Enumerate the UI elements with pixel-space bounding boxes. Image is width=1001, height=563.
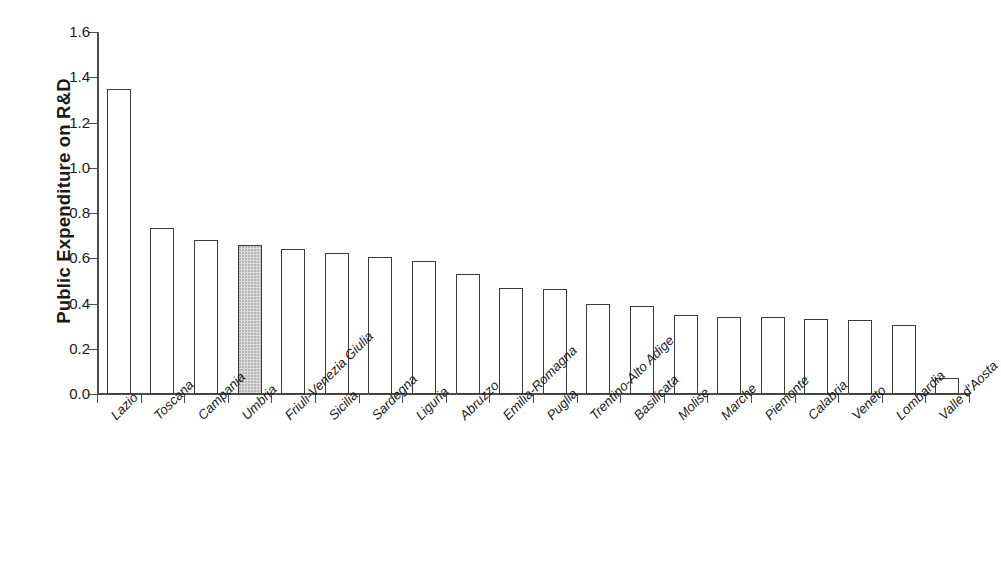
plot-area: 0.00.20.40.60.81.01.21.41.6 <box>97 32 969 394</box>
bar-lazio[interactable] <box>107 89 131 394</box>
bar-trentino-alto-adige[interactable] <box>586 304 610 395</box>
bar-sardegna[interactable] <box>368 257 392 394</box>
bar-marche[interactable] <box>717 317 741 394</box>
bar-toscana[interactable] <box>150 228 174 394</box>
y-tick-label: 1.6 <box>69 23 90 40</box>
x-tick-mark <box>97 395 98 403</box>
y-tick-label: 0.6 <box>69 249 90 266</box>
bar-friuli-venezia-giulia[interactable] <box>281 249 305 394</box>
bar-veneto[interactable] <box>848 320 872 394</box>
y-tick-label: 0.0 <box>69 385 90 402</box>
x-tick-mark <box>141 395 142 403</box>
bar-emilia-romagna[interactable] <box>499 288 523 394</box>
y-tick-label: 0.4 <box>69 295 90 312</box>
bar-lombardia[interactable] <box>892 325 916 394</box>
bar-umbria[interactable] <box>238 245 262 394</box>
y-tick-label: 0.8 <box>69 204 90 221</box>
bar-piemonte[interactable] <box>761 317 785 394</box>
y-tick-label: 0.2 <box>69 340 90 357</box>
y-tick-label: 1.0 <box>69 159 90 176</box>
bar-abruzzo[interactable] <box>456 274 480 394</box>
bar-liguria[interactable] <box>412 261 436 394</box>
y-tick-label: 1.2 <box>69 114 90 131</box>
bar-campania[interactable] <box>194 240 218 394</box>
y-tick-label: 1.4 <box>69 68 90 85</box>
